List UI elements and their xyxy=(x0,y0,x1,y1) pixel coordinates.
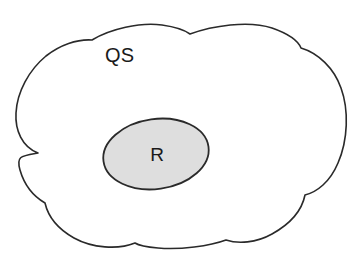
inner-region-label: R xyxy=(150,144,164,165)
set-diagram: QS R xyxy=(0,0,362,261)
diagram-canvas: QS R xyxy=(0,0,362,261)
outer-region-label: QS xyxy=(105,44,134,66)
